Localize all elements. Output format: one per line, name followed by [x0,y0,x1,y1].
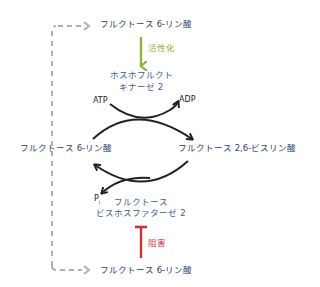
fructose-2-6-bisphosphate-label: フルクトース 2,6-ビスリン酸 [178,143,296,154]
activation-label: 活性化 [148,43,175,54]
adp-label: ADP [179,94,195,105]
f6p-to-f26bp-curve [93,120,192,140]
left-fructose-6-phosphate-label: フルクトース 6-リン酸 [20,143,112,154]
top-fructose-6-phosphate-label: フルクトース 6-リン酸 [100,19,192,30]
pfk2-label-line1: ホスホフルクト [110,70,173,81]
bottom-fructose-6-phosphate-label: フルクトース 6-リン酸 [100,265,192,276]
pi-label-subscript: i [99,199,100,205]
fbpase2-label-line1: フルクトース [114,197,168,208]
dashed-corner-bottom [52,266,56,270]
release-pi-curve [102,178,150,193]
pfk2-label-line2: キナーゼ 2 [119,82,163,93]
dashed-arrowhead-bottom-icon [84,266,89,274]
atp-label: ATP [93,95,108,106]
pi-label: Pi [94,193,100,208]
atp-to-adp-curve [110,102,178,118]
inhibition-label: 阻害 [148,238,166,249]
fbpase2-label-line2: ビスホスファターゼ 2 [96,208,185,219]
dashed-arrowhead-top-icon [84,22,89,30]
